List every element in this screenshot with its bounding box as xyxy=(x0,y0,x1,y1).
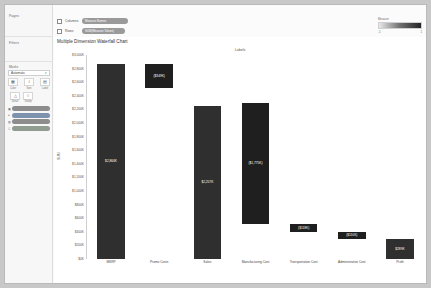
filters-label: Filters xyxy=(9,41,49,45)
marks-tooltip-button[interactable]: ○ Tooltip xyxy=(23,92,33,104)
y-axis-tick-label: $1,000K xyxy=(72,189,84,193)
marks-pill-body xyxy=(12,126,50,131)
x-axis-tick-label: Transportation Cost xyxy=(286,260,322,264)
marks-label-button[interactable]: ▤ Label xyxy=(40,78,50,90)
marks-pill[interactable]: ▤ xyxy=(8,119,50,124)
marks-size-button[interactable]: ↕ Size xyxy=(24,78,34,90)
marks-label: Marks xyxy=(9,65,18,69)
y-axis-tick-label: $400K xyxy=(75,230,84,234)
tableau-worksheet-window: Pages Filters Marks Automatic ▾ ▦ Color … xyxy=(4,4,427,284)
marks-pill[interactable]: ▣ xyxy=(8,106,50,111)
rows-pill-label: SUM(Measure Values) xyxy=(85,29,114,33)
left-sidebar: Pages Filters Marks Automatic ▾ ▦ Color … xyxy=(5,5,53,283)
legend-title: Measure xyxy=(378,17,422,21)
x-axis-tick-label: Administrative Cost xyxy=(334,260,370,264)
y-axis-tick-label: $1,600K xyxy=(72,148,84,152)
label-pill-icon: ▤ xyxy=(8,120,11,124)
columns-icon xyxy=(57,19,62,24)
x-axis-tick-label: Promo Costs xyxy=(141,260,177,264)
detail-pill-icon: △ xyxy=(8,126,11,130)
marks-pill[interactable]: △ xyxy=(8,126,50,131)
measure-icon: ▣ xyxy=(8,107,11,111)
pages-shelf[interactable]: Pages xyxy=(5,11,53,37)
y-axis-ticks: $3,000K$2,800K$2,600K$2,400K$2,200K$2,00… xyxy=(61,55,85,259)
rows-icon xyxy=(57,29,62,34)
marks-label-label: Label xyxy=(40,87,50,90)
x-axis-ticks: MSRPPromo CostsSalesManufacturing CostTr… xyxy=(87,259,424,281)
bar-value-label: ($110K) xyxy=(346,233,357,237)
marks-button-row-2: △ Detail ○ Tooltip xyxy=(8,92,50,104)
label-icon: ▤ xyxy=(40,78,50,86)
bar-value-label: $289K xyxy=(395,247,404,251)
y-axis-tick-label: $1,400K xyxy=(72,162,84,166)
rows-pill[interactable]: SUM(Measure Values) xyxy=(82,28,125,34)
dimension-icon: ● xyxy=(8,113,11,117)
tooltip-icon: ○ xyxy=(23,92,33,100)
marks-color-button[interactable]: ▦ Color xyxy=(8,78,18,90)
marks-pill-body xyxy=(12,119,50,124)
chart-title: Multiple Dimension Waterfall Chart xyxy=(57,39,128,44)
pages-label: Pages xyxy=(9,14,49,18)
filters-shelf[interactable]: Filters xyxy=(5,38,53,62)
detail-icon: △ xyxy=(10,92,20,100)
marks-detail-label: Detail xyxy=(10,100,20,103)
column-header-labels: Labels xyxy=(54,48,426,52)
x-axis-tick-label: Manufacturing Cost xyxy=(238,260,274,264)
y-axis-tick-label: $2,800K xyxy=(72,67,84,71)
y-axis-tick-label: $2,200K xyxy=(72,107,84,111)
color-icon: ▦ xyxy=(8,78,18,86)
size-icon: ↕ xyxy=(24,78,34,86)
columns-label: Columns xyxy=(65,19,79,23)
marks-tooltip-label: Tooltip xyxy=(23,100,33,103)
y-axis-tick-label: $0K xyxy=(78,257,84,261)
marks-pill[interactable]: ● xyxy=(8,113,50,118)
mark-type-dropdown[interactable]: Automatic ▾ xyxy=(8,70,50,76)
marks-pill-body xyxy=(12,106,50,111)
marks-pill-list: ▣ ● ▤ △ xyxy=(8,106,50,131)
rows-shelf[interactable]: Rows SUM(Measure Values) xyxy=(57,28,125,34)
x-axis-tick-label: MSRP xyxy=(93,260,129,264)
legend-min: -1 xyxy=(378,30,381,34)
mark-type-value: Automatic xyxy=(11,71,25,75)
columns-pill-label: Measure Names xyxy=(85,19,106,23)
y-axis-tick-label: $2,000K xyxy=(72,121,84,125)
y-axis-tick-label: $200K xyxy=(75,243,84,247)
chevron-down-icon: ▾ xyxy=(45,71,47,75)
bar-value-label: ($118K) xyxy=(298,226,309,230)
bar-value-label: ($1,775K) xyxy=(249,161,263,165)
y-axis-tick-label: $600K xyxy=(75,216,84,220)
columns-pill[interactable]: Measure Names xyxy=(82,18,128,24)
y-axis-tick-label: $800K xyxy=(75,203,84,207)
legend-max: 1 xyxy=(420,30,422,34)
rows-label: Rows xyxy=(65,29,79,33)
y-axis-tick-label: $3,000K xyxy=(72,53,84,57)
y-axis-tick-label: $2,600K xyxy=(72,80,84,84)
legend-gradient xyxy=(378,22,422,29)
marks-size-label: Size xyxy=(24,87,34,90)
y-axis-tick-label: $2,400K xyxy=(72,94,84,98)
legend-scale: -1 1 xyxy=(378,30,422,34)
y-axis-tick-label: $1,800K xyxy=(72,135,84,139)
x-axis-tick-label: Sales xyxy=(189,260,225,264)
bar-value-label: $2,864K xyxy=(105,159,117,163)
bar-value-label: ($349K) xyxy=(154,74,165,78)
columns-shelf[interactable]: Columns Measure Names xyxy=(57,18,128,24)
marks-button-row-1: ▦ Color ↕ Size ▤ Label xyxy=(8,78,50,90)
y-axis-tick-label: $1,200K xyxy=(72,175,84,179)
marks-pill-body xyxy=(12,113,50,118)
marks-color-label: Color xyxy=(8,87,18,90)
visualization-pane: Multiple Dimension Waterfall Chart Label… xyxy=(54,37,426,283)
color-legend[interactable]: Measure -1 1 xyxy=(378,17,422,34)
bar-value-label: $2,257K xyxy=(201,180,213,184)
plot-area: $2,864K($349K)$2,257K($1,775K)($118K)($1… xyxy=(87,55,424,259)
x-axis-tick-label: Profit xyxy=(382,260,418,264)
marks-detail-button[interactable]: △ Detail xyxy=(10,92,20,104)
marks-card: Automatic ▾ ▦ Color ↕ Size ▤ Label xyxy=(8,70,50,132)
plot-wrapper: SUM $3,000K$2,800K$2,600K$2,400K$2,200K$… xyxy=(57,55,424,281)
